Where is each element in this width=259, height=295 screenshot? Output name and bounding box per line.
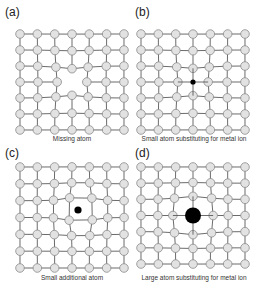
atom-icon — [102, 62, 111, 71]
atom-icon — [207, 194, 216, 203]
atom-icon — [85, 30, 94, 39]
atom-icon — [137, 78, 146, 87]
atom-icon — [223, 62, 232, 71]
atom-icon — [65, 194, 74, 203]
atom-icon — [241, 30, 250, 39]
atom-icon — [241, 211, 250, 220]
atom-icon — [33, 213, 42, 222]
atom-icon — [50, 264, 59, 273]
atom-icon — [33, 46, 42, 55]
atom-icon — [120, 180, 129, 189]
atom-icon — [206, 260, 215, 269]
atom-icon — [86, 231, 95, 240]
atom-icon — [102, 94, 111, 103]
atom-icon — [171, 179, 180, 188]
atom-icon — [33, 230, 42, 239]
atom-icon — [50, 247, 59, 256]
atom-icon — [154, 163, 163, 172]
atom-icon — [137, 244, 146, 253]
atom-icon — [137, 179, 146, 188]
atom-icon — [120, 264, 129, 273]
atom-icon — [85, 247, 94, 256]
atom-icon — [50, 30, 59, 39]
atom-icon — [172, 63, 181, 72]
atom-icon — [137, 46, 146, 55]
panel-d-lattice — [137, 163, 250, 269]
atom-icon — [16, 30, 25, 39]
atom-icon — [33, 196, 42, 205]
atom-icon — [137, 126, 146, 135]
atom-icon — [206, 126, 215, 135]
atom-icon — [102, 46, 111, 55]
atom-icon — [103, 230, 112, 239]
atom-icon — [120, 196, 129, 205]
atom-icon — [49, 196, 58, 205]
atom-icon — [224, 227, 233, 236]
atom-icon — [85, 178, 94, 187]
atom-icon — [53, 78, 62, 87]
atom-icon — [241, 94, 250, 103]
atom-icon — [68, 109, 77, 118]
atom-icon — [241, 179, 250, 188]
atom-icon — [16, 126, 25, 135]
atom-icon — [33, 180, 42, 189]
atom-icon — [120, 30, 129, 39]
atom-icon — [189, 126, 198, 135]
atom-icon — [137, 227, 146, 236]
atom-icon — [224, 195, 233, 204]
atom-icon — [67, 178, 76, 187]
atom-icon — [223, 46, 232, 55]
atom-icon — [154, 46, 163, 55]
atom-icon — [50, 126, 59, 135]
panel-b-caption: Small atom substituting for metal ion — [132, 135, 256, 142]
atom-icon — [34, 78, 43, 87]
atom-icon — [154, 94, 163, 103]
atom-icon — [241, 46, 250, 55]
atom-icon — [154, 227, 163, 236]
atom-icon — [85, 109, 94, 118]
atom-icon — [223, 110, 232, 119]
atom-icon — [84, 63, 93, 72]
atom-icon — [16, 180, 25, 189]
atom-icon — [172, 93, 181, 102]
atom-icon — [154, 244, 163, 253]
atom-icon — [189, 30, 198, 39]
atom-icon — [67, 231, 76, 240]
atom-icon — [120, 126, 129, 135]
panel-c-lattice — [16, 163, 129, 273]
atom-icon — [120, 94, 129, 103]
atom-icon — [68, 126, 77, 135]
atom-icon — [102, 247, 111, 256]
atom-icon — [223, 126, 232, 135]
atom-icon — [241, 62, 250, 71]
atom-icon — [206, 46, 215, 55]
atom-icon — [16, 247, 25, 256]
atom-icon — [102, 30, 111, 39]
atom-icon — [189, 260, 198, 269]
atom-icon — [137, 163, 146, 172]
atom-icon — [33, 30, 42, 39]
atom-icon — [85, 126, 94, 135]
atom-icon — [33, 163, 42, 172]
atom-icon — [68, 163, 77, 172]
atom-icon — [16, 196, 25, 205]
atom-icon — [120, 247, 129, 256]
lattice-diagram — [0, 0, 259, 295]
atom-icon — [33, 110, 42, 119]
large-substitutional-atom-icon — [185, 208, 201, 224]
atom-icon — [241, 260, 250, 269]
atom-icon — [120, 62, 129, 71]
atom-icon — [68, 47, 77, 56]
atom-icon — [205, 93, 214, 102]
atom-icon — [103, 214, 112, 223]
atom-icon — [120, 213, 129, 222]
atom-icon — [206, 109, 215, 118]
atom-icon — [16, 62, 25, 71]
atom-icon — [171, 260, 180, 269]
atom-icon — [137, 62, 146, 71]
atom-icon — [65, 216, 74, 225]
atom-icon — [103, 196, 112, 205]
atom-icon — [68, 247, 77, 256]
atom-icon — [16, 46, 25, 55]
atom-icon — [154, 126, 163, 135]
